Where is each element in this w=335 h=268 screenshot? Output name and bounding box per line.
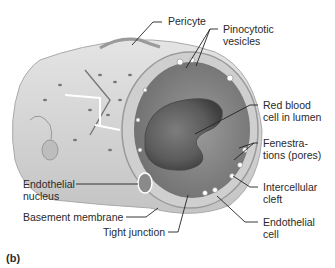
panel-label: (b) — [6, 252, 20, 264]
label-endothelial-nucleus-line1: Endothelial — [23, 178, 75, 190]
label-endothelial-cell-line2: cell — [263, 228, 279, 240]
label-endothelial-cell-line1: Endothelial — [263, 216, 315, 228]
label-pinocytotic-vesicles-line1: Pinocytotic — [223, 23, 274, 35]
label-red-blood-cell-line2: cell in lumen — [263, 111, 321, 123]
label-tight-junction: Tight junction — [103, 226, 165, 238]
label-fenestrations-line1: Fenestra- — [263, 137, 308, 149]
label-fenestrations-line2: tions (pores) — [263, 149, 321, 161]
label-basement-membrane: Basement membrane — [23, 211, 123, 223]
label-pinocytotic-vesicles-line2: vesicles — [223, 35, 260, 47]
label-intercellular-cleft-line2: cleft — [263, 193, 282, 205]
label-red-blood-cell-line1: Red blood — [263, 99, 311, 111]
label-intercellular-cleft-line1: Intercellular — [263, 181, 317, 193]
label-pericyte: Pericyte — [168, 15, 206, 27]
label-endothelial-nucleus-line2: nucleus — [23, 190, 59, 202]
